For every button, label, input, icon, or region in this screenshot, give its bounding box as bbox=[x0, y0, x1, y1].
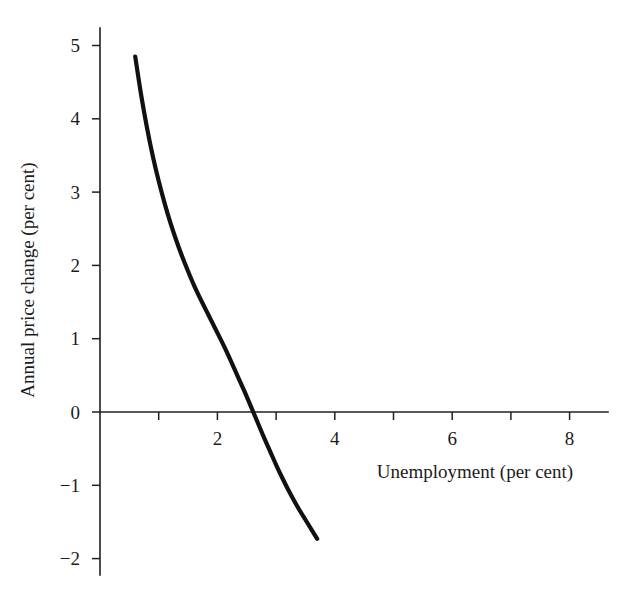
y-axis-title: Annual price change (per cent) bbox=[17, 162, 39, 397]
x-tick-label-6: 6 bbox=[447, 428, 457, 449]
chart-figure: 5 4 3 2 1 0 −1 −2 2 4 6 8 Unemployment (… bbox=[0, 0, 633, 599]
phillips-curve-chart: 5 4 3 2 1 0 −1 −2 2 4 6 8 Unemployment (… bbox=[0, 0, 633, 599]
y-tick-label-4: 4 bbox=[71, 108, 81, 129]
y-tick-label-2: 2 bbox=[71, 255, 81, 276]
y-axis-tick-labels: 5 4 3 2 1 0 −1 −2 bbox=[60, 35, 81, 569]
x-tick-label-2: 2 bbox=[213, 428, 223, 449]
y-tick-label-1: 1 bbox=[71, 328, 81, 349]
x-tick-label-4: 4 bbox=[330, 428, 340, 449]
y-tick-label-3: 3 bbox=[71, 182, 81, 203]
y-tick-label-neg1: −1 bbox=[60, 475, 80, 496]
x-tick-label-8: 8 bbox=[565, 428, 575, 449]
phillips-curve-line bbox=[135, 57, 317, 539]
y-tick-label-5: 5 bbox=[71, 35, 81, 56]
y-tick-label-neg2: −2 bbox=[60, 548, 80, 569]
x-axis-title: Unemployment (per cent) bbox=[377, 461, 573, 483]
x-axis-ticks bbox=[159, 412, 570, 420]
y-tick-label-0: 0 bbox=[71, 402, 81, 423]
y-axis-ticks bbox=[92, 46, 100, 559]
